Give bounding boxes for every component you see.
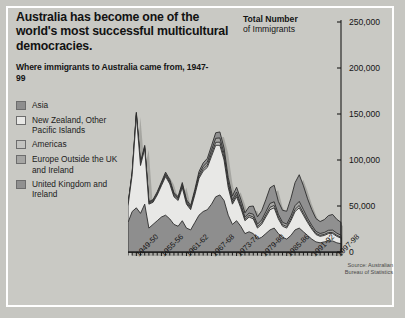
legend-swatch-uk-ireland [16,180,26,189]
y-tick-label: 100,000 [349,155,380,165]
legend-swatch-new-zealand [16,116,26,125]
chart-svg [128,18,343,256]
y-tick-label: 150,000 [349,109,380,119]
legend-item-asia[interactable]: Asia [16,100,128,111]
y-axis-labels: 050,000100,000150,000200,000250,000 [349,0,405,270]
legend-swatch-asia [16,101,26,110]
legend-item-uk-ireland[interactable]: United Kingdom and Ireland [16,179,128,199]
legend-label-americas: Americas [32,139,128,149]
y-tick-label: 200,000 [349,63,380,73]
chart-legend: Asia New Zealand, Other Pacific Islands … [16,100,128,203]
legend-swatch-americas [16,140,26,149]
legend-item-new-zealand[interactable]: New Zealand, Other Pacific Islands [16,115,128,135]
stacked-area-chart [128,18,343,256]
legend-label-uk-ireland: United Kingdom and Ireland [32,179,128,199]
x-axis-labels: 1949-501955-561961-621967-681973-741979-… [128,252,358,304]
legend-item-americas[interactable]: Americas [16,139,128,150]
source-attribution: Source: Australian Bureau of Statistics [331,262,393,275]
legend-swatch-europe [16,155,26,164]
y-tick-label: 250,000 [349,17,380,27]
legend-item-europe[interactable]: Europe Outside the UK and Ireland [16,154,128,174]
legend-label-europe: Europe Outside the UK and Ireland [32,154,128,174]
legend-label-asia: Asia [32,100,128,110]
legend-label-new-zealand: New Zealand, Other Pacific Islands [32,115,128,135]
y-tick-label: 50,000 [349,201,375,211]
